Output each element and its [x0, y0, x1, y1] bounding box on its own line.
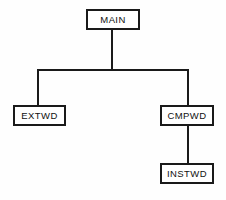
node-extwd-label: EXTWD — [21, 110, 57, 120]
node-extwd[interactable]: EXTWD — [13, 105, 66, 126]
node-instwd[interactable]: INSTWD — [160, 163, 214, 184]
edge-cmpwd-to-instwd — [187, 125, 189, 164]
node-main-label: MAIN — [100, 14, 125, 24]
node-instwd-label: INSTWD — [167, 168, 207, 178]
node-cmpwd-label: CMPWD — [168, 110, 207, 120]
edge-main-to-bus — [111, 30, 113, 70]
node-cmpwd[interactable]: CMPWD — [160, 105, 214, 126]
edge-bus-horizontal — [37, 69, 189, 71]
hierarchy-diagram: MAIN EXTWD CMPWD INSTWD — [0, 0, 226, 200]
edge-bus-to-cmpwd — [187, 69, 189, 106]
edge-bus-to-extwd — [37, 69, 39, 106]
node-main[interactable]: MAIN — [86, 9, 140, 30]
